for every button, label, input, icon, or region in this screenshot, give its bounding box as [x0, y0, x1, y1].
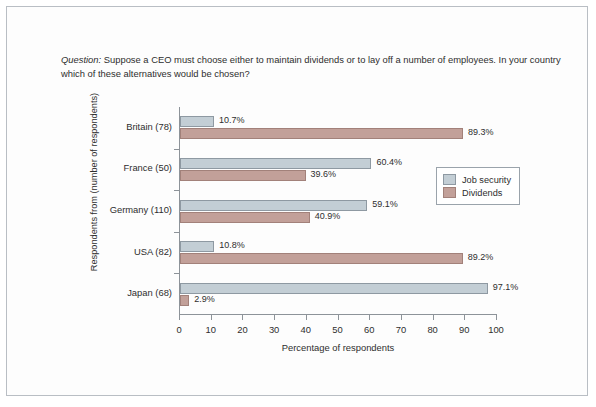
- bar-value-label: 89.2%: [463, 252, 494, 262]
- bar-value-label: 89.3%: [463, 127, 494, 137]
- bar-row: 10.7%: [180, 116, 497, 127]
- bar-row: 97.1%: [180, 283, 497, 294]
- x-axis-tick-label: 0: [176, 324, 181, 335]
- x-axis-tick-label: 50: [332, 324, 342, 335]
- bar-value-label: 2.9%: [189, 294, 215, 304]
- y-axis-tick: [174, 190, 179, 191]
- x-axis-tick: [338, 315, 339, 320]
- x-axis-tick: [179, 315, 180, 320]
- bar-value-label: 39.6%: [306, 169, 337, 179]
- bar-dividends[interactable]: [180, 170, 306, 181]
- bar-job-security[interactable]: [180, 283, 488, 294]
- category-label: France (50): [124, 162, 172, 173]
- bar-row: 10.8%: [180, 241, 497, 252]
- x-axis-tick: [369, 315, 370, 320]
- category-label: Germany (110): [110, 204, 172, 215]
- legend-item[interactable]: Dividends: [443, 186, 511, 199]
- bar-group: USA (82)10.8%89.2%: [180, 241, 497, 265]
- y-axis-title: Respondents from (number of respondents): [89, 72, 99, 292]
- bar-row: 40.9%: [180, 212, 497, 223]
- x-axis-tick: [274, 315, 275, 320]
- y-axis-tick: [174, 273, 179, 274]
- x-axis-tick: [242, 315, 243, 320]
- legend-swatch-icon: [443, 187, 456, 198]
- bar-dividends[interactable]: [180, 253, 463, 264]
- bar-group: Britain (78)10.7%89.3%: [180, 116, 497, 140]
- bar-value-label: 40.9%: [310, 211, 341, 221]
- question-text: Suppose a CEO must choose either to main…: [61, 54, 561, 79]
- chart-legend: Job securityDividends: [436, 167, 520, 205]
- bar-row: 89.2%: [180, 253, 497, 264]
- y-axis-tick: [174, 232, 179, 233]
- x-axis-title: Percentage of respondents: [179, 342, 497, 353]
- bar-value-label: 59.1%: [367, 199, 398, 209]
- question-lead: Question:: [61, 54, 101, 65]
- x-axis-tick-label: 10: [205, 324, 215, 335]
- x-axis-tick-label: 100: [488, 324, 504, 335]
- plot-area: Britain (78)10.7%89.3%France (50)60.4%39…: [179, 107, 497, 315]
- legend-swatch-icon: [443, 174, 456, 185]
- question-caption: Question: Suppose a CEO must choose eith…: [61, 53, 561, 80]
- x-axis-tick-label: 80: [427, 324, 437, 335]
- x-axis-tick-label: 60: [364, 324, 374, 335]
- legend-label: Job security: [462, 175, 511, 185]
- bar-job-security[interactable]: [180, 158, 371, 169]
- bar-dividends[interactable]: [180, 295, 189, 306]
- bar-dividends[interactable]: [180, 128, 463, 139]
- bar-value-label: 60.4%: [371, 157, 402, 167]
- bar-row: 2.9%: [180, 295, 497, 306]
- x-axis-tick-label: 30: [269, 324, 279, 335]
- x-axis-tick: [211, 315, 212, 320]
- category-label: Britain (78): [126, 121, 172, 132]
- bar-dividends[interactable]: [180, 212, 310, 223]
- x-axis-tick-label: 20: [237, 324, 247, 335]
- x-axis-tick: [306, 315, 307, 320]
- x-axis-tick: [433, 315, 434, 320]
- legend-label: Dividends: [462, 188, 502, 198]
- x-axis-tick-label: 40: [301, 324, 311, 335]
- bar-row: 89.3%: [180, 128, 497, 139]
- category-label: Japan (68): [127, 287, 172, 298]
- bar-group: Japan (68)97.1%2.9%: [180, 283, 497, 307]
- x-axis-tick: [464, 315, 465, 320]
- bar-job-security[interactable]: [180, 116, 214, 127]
- bar-value-label: 10.7%: [214, 115, 245, 125]
- figure-frame: Question: Suppose a CEO must choose eith…: [6, 6, 588, 396]
- bar-value-label: 10.8%: [214, 240, 245, 250]
- legend-item[interactable]: Job security: [443, 173, 511, 186]
- bar-job-security[interactable]: [180, 200, 367, 211]
- y-axis-tick: [174, 149, 179, 150]
- x-axis-tick-label: 90: [459, 324, 469, 335]
- bar-job-security[interactable]: [180, 241, 214, 252]
- x-axis-tick: [496, 315, 497, 320]
- x-axis-tick-label: 70: [396, 324, 406, 335]
- category-label: USA (82): [134, 246, 172, 257]
- bar-value-label: 97.1%: [488, 282, 519, 292]
- x-axis-tick: [401, 315, 402, 320]
